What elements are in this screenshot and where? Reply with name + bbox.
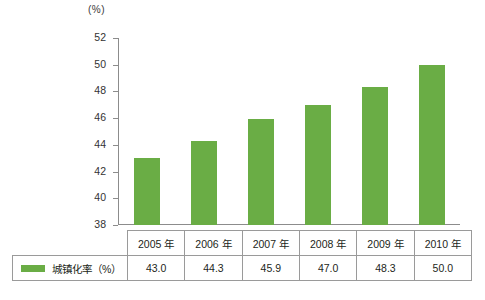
bar-slot [289,38,346,225]
bar [305,105,331,225]
table-header-cell: 2007 年 [242,231,299,256]
plot-area: 5250484644424038 [118,38,460,225]
table-data-cell: 47.0 [299,256,356,281]
table-data-cell: 44.3 [185,256,242,281]
table-data-cell: 48.3 [357,256,414,281]
bar [191,141,217,225]
table-header-cell: 2005 年 [128,231,185,256]
bar [248,119,274,225]
table-header-cell: 2008 年 [299,231,356,256]
bar-slot [346,38,403,225]
y-axis-tick-label: 40 [94,191,106,203]
table-data-cell: 45.9 [242,256,299,281]
legend-swatch-icon [21,265,45,272]
y-axis-tick: 38 [113,225,118,226]
table-header-cell: 2006 年 [185,231,242,256]
table-header-cell: 2009 年 [357,231,414,256]
bar [134,158,160,225]
table-header-cell: 2010 年 [414,231,471,256]
legend-cell: 城镇化率（%） [13,256,128,281]
legend-label: 城镇化率（%） [52,261,121,276]
bar [362,87,388,225]
table-corner-cell [13,231,128,256]
y-axis-tick-label: 52 [94,31,106,43]
y-axis-tick-label: 44 [94,138,106,150]
y-axis-tick-label: 48 [94,84,106,96]
bar-slot [175,38,232,225]
data-table: 2005 年2006 年2007 年2008 年2009 年2010 年 城镇化… [12,230,472,281]
bar [419,65,445,225]
y-axis-tick-label: 50 [94,58,106,70]
table-row: 城镇化率（%） 43.044.345.947.048.350.0 [13,256,472,281]
table-data-cell: 50.0 [414,256,471,281]
table-data-cell: 43.0 [128,256,185,281]
chart-page: (%) 5250484644424038 2005 年2006 年2007 年2… [0,0,485,300]
table-header-row: 2005 年2006 年2007 年2008 年2009 年2010 年 [13,231,472,256]
bar-series [118,38,460,225]
y-axis-unit-label: (%) [88,4,105,15]
y-axis-tick-label: 38 [94,218,106,230]
y-axis-tick-label: 46 [94,111,106,123]
y-axis-tick-label: 42 [94,165,106,177]
bar-slot [118,38,175,225]
bar-slot [232,38,289,225]
bar-slot [403,38,460,225]
